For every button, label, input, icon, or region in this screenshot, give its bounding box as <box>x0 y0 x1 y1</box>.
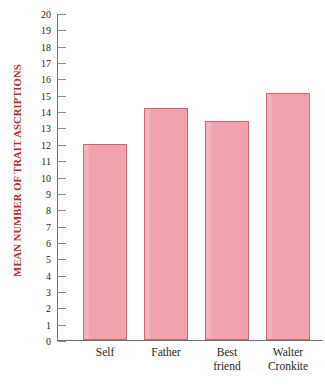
figure-caption <box>0 381 325 387</box>
y-tick-mark <box>58 194 66 195</box>
y-tick-mark <box>58 243 66 244</box>
y-tick-mark <box>58 178 66 179</box>
x-axis-line <box>57 340 323 341</box>
y-tick-label: 15 <box>29 90 51 101</box>
bar <box>144 108 188 340</box>
y-tick-mark <box>58 325 66 326</box>
bar-chart-figure: MEAN NUMBER OF TRAIT ASCRIPTIONS 2019181… <box>0 0 325 387</box>
y-tick-label: 2 <box>29 303 51 314</box>
y-tick-label: 12 <box>29 139 51 150</box>
y-tick-label: 7 <box>29 221 51 232</box>
x-tick-label: WalterCronkite <box>256 346 320 373</box>
y-tick-mark <box>58 276 66 277</box>
x-tick-label-line: Self <box>73 346 137 360</box>
y-tick-mark <box>58 341 66 342</box>
x-tick-label-line: friend <box>195 360 259 374</box>
y-tick-label: 14 <box>29 107 51 118</box>
bar <box>205 121 249 340</box>
bar <box>83 144 127 340</box>
x-tick-label: Father <box>134 346 198 360</box>
plot-area: 20191817161514131211109876543210 <box>57 14 323 341</box>
y-tick-label: 8 <box>29 205 51 216</box>
y-tick-mark <box>58 30 66 31</box>
y-tick-label: 10 <box>29 172 51 183</box>
x-tick-label-line: Father <box>134 346 198 360</box>
y-tick-label: 4 <box>29 270 51 281</box>
y-tick-label: 0 <box>29 336 51 347</box>
y-tick-mark <box>58 96 66 97</box>
y-tick-mark <box>58 112 66 113</box>
y-tick-label: 16 <box>29 74 51 85</box>
x-tick-label: Bestfriend <box>195 346 259 373</box>
y-tick-mark <box>58 308 66 309</box>
y-tick-label: 17 <box>29 58 51 69</box>
x-tick-label-line: Best <box>195 346 259 360</box>
y-tick-label: 5 <box>29 254 51 265</box>
y-tick-label: 20 <box>29 9 51 20</box>
y-tick-mark <box>58 210 66 211</box>
y-tick-mark <box>58 292 66 293</box>
y-tick-label: 3 <box>29 286 51 297</box>
y-axis-title: MEAN NUMBER OF TRAIT ASCRIPTIONS <box>12 51 23 291</box>
y-tick-label: 1 <box>29 319 51 330</box>
y-tick-mark <box>58 259 66 260</box>
x-tick-label-line: Cronkite <box>256 360 320 374</box>
y-tick-label: 9 <box>29 188 51 199</box>
y-tick-label: 18 <box>29 41 51 52</box>
y-tick-mark <box>58 145 66 146</box>
x-tick-label-line: Walter <box>256 346 320 360</box>
y-tick-mark <box>58 128 66 129</box>
bar <box>266 93 310 340</box>
y-tick-mark <box>58 47 66 48</box>
y-tick-label: 19 <box>29 25 51 36</box>
y-tick-mark <box>58 79 66 80</box>
y-tick-label: 11 <box>29 156 51 167</box>
y-tick-mark <box>58 161 66 162</box>
x-tick-label: Self <box>73 346 137 360</box>
y-tick-mark <box>58 14 66 15</box>
y-tick-label: 6 <box>29 237 51 248</box>
y-tick-label: 13 <box>29 123 51 134</box>
y-tick-mark <box>58 63 66 64</box>
y-tick-mark <box>58 227 66 228</box>
